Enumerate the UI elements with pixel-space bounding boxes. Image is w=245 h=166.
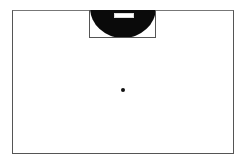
goal-slot	[114, 13, 134, 18]
center-spot	[121, 88, 125, 92]
